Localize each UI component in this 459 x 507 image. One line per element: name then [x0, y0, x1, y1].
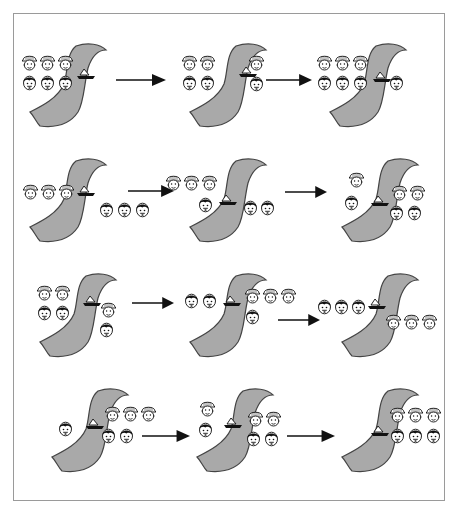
missionary-icon: [385, 312, 402, 330]
cannibal-icon: [98, 320, 115, 338]
missionary-icon: [421, 312, 438, 330]
missionary-icon: [21, 53, 38, 71]
missionary-icon: [389, 405, 406, 423]
missionary-icon: [409, 183, 426, 201]
missionary-icon: [201, 173, 218, 191]
missionary-icon: [140, 404, 157, 422]
cannibal-icon: [134, 200, 151, 218]
boat-icon: [222, 295, 242, 307]
missionary-icon: [247, 409, 264, 427]
cannibal-icon: [98, 200, 115, 218]
missionary-icon: [199, 53, 216, 71]
panel-step-9: [330, 270, 430, 360]
missionary-icon: [36, 283, 53, 301]
arrow-icon: [285, 186, 327, 198]
cannibal-icon: [259, 198, 276, 216]
boat-icon: [370, 425, 390, 437]
missionary-icon: [348, 170, 365, 188]
cannibal-icon: [263, 429, 280, 447]
boat-icon: [82, 295, 102, 307]
cannibal-icon: [352, 73, 369, 91]
missionary-icon: [57, 53, 74, 71]
missionary-icon: [407, 405, 424, 423]
boat-icon: [76, 68, 96, 80]
missionary-icon: [280, 286, 297, 304]
cannibal-icon: [39, 73, 56, 91]
boat-icon: [370, 195, 390, 207]
panel-step-10: [40, 385, 140, 475]
cannibal-icon: [245, 429, 262, 447]
missionary-icon: [262, 286, 279, 304]
cannibal-icon: [333, 297, 350, 315]
missionary-icon: [244, 286, 261, 304]
arrow-icon: [132, 297, 174, 309]
missionary-icon: [352, 53, 369, 71]
arrow-icon: [278, 314, 320, 326]
cannibal-icon: [197, 420, 214, 438]
cannibal-icon: [57, 419, 74, 437]
boat-icon: [218, 194, 238, 206]
panel-step-8: [178, 270, 278, 360]
missionary-icon: [100, 300, 117, 318]
cannibal-icon: [244, 307, 261, 325]
missionary-icon: [122, 404, 139, 422]
missionary-icon: [104, 404, 121, 422]
cannibal-icon: [389, 426, 406, 444]
panel-step-4: [18, 155, 118, 245]
panel-step-11: [185, 385, 285, 475]
missionary-icon: [391, 183, 408, 201]
cannibal-icon: [100, 426, 117, 444]
cannibal-icon: [248, 74, 265, 92]
cannibal-icon: [334, 73, 351, 91]
panel-step-2: [178, 40, 278, 130]
river-icon: [178, 270, 278, 360]
panel-step-5: [178, 155, 278, 245]
cannibal-icon: [181, 73, 198, 91]
missionary-icon: [165, 173, 182, 191]
missionary-icon: [248, 53, 265, 71]
cannibal-icon: [406, 203, 423, 221]
missionary-icon: [181, 53, 198, 71]
missionary-icon: [425, 405, 442, 423]
panel-step-3: [318, 40, 418, 130]
panel-step-1: [18, 40, 118, 130]
cannibal-icon: [407, 426, 424, 444]
missionary-icon: [39, 53, 56, 71]
cannibal-icon: [183, 291, 200, 309]
cannibal-icon: [350, 297, 367, 315]
cannibal-icon: [388, 73, 405, 91]
cannibal-icon: [21, 73, 38, 91]
missionary-icon: [265, 409, 282, 427]
cannibal-icon: [197, 195, 214, 213]
missionary-icon: [334, 53, 351, 71]
cannibal-icon: [242, 198, 259, 216]
cannibal-icon: [57, 73, 74, 91]
cannibal-icon: [343, 193, 360, 211]
missionary-icon: [183, 173, 200, 191]
cannibal-icon: [199, 73, 216, 91]
cannibal-icon: [54, 303, 71, 321]
arrow-icon: [142, 430, 190, 442]
missionary-icon: [22, 182, 39, 200]
missionary-icon: [58, 182, 75, 200]
arrow-icon: [116, 74, 166, 86]
cannibal-icon: [388, 203, 405, 221]
missionary-icon: [40, 182, 57, 200]
panel-step-7: [28, 270, 128, 360]
boat-icon: [223, 417, 243, 429]
missionary-icon: [54, 283, 71, 301]
missionary-icon: [403, 312, 420, 330]
missionary-icon: [199, 399, 216, 417]
cannibal-icon: [201, 291, 218, 309]
cannibal-icon: [116, 200, 133, 218]
boat-icon: [367, 298, 387, 310]
cannibal-icon: [316, 73, 333, 91]
missionary-icon: [316, 53, 333, 71]
panel-step-12: [330, 385, 430, 475]
cannibal-icon: [36, 303, 53, 321]
boat-icon: [76, 185, 96, 197]
cannibal-icon: [316, 297, 333, 315]
arrow-icon: [287, 430, 335, 442]
panel-step-6: [330, 155, 430, 245]
cannibal-icon: [118, 426, 135, 444]
